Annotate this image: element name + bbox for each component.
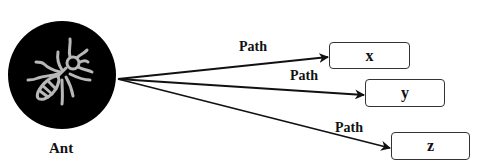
ant-node: [8, 21, 116, 129]
target-node-x: x: [329, 42, 410, 69]
edge-label-x: Path: [239, 40, 267, 54]
edge-label-z: Path: [335, 121, 363, 135]
target-label-z: z: [427, 137, 434, 155]
edge-to-z: [118, 79, 390, 148]
target-node-z: z: [391, 132, 470, 160]
diagram-canvas: Ant Path Path Path x y z: [0, 0, 477, 166]
target-node-y: y: [365, 79, 445, 107]
target-label-x: x: [366, 47, 374, 65]
edge-label-y: Path: [290, 69, 318, 83]
ant-label: Ant: [49, 141, 73, 156]
edge-to-y: [118, 79, 364, 95]
target-label-y: y: [401, 84, 409, 102]
ant-circle: [8, 21, 116, 129]
